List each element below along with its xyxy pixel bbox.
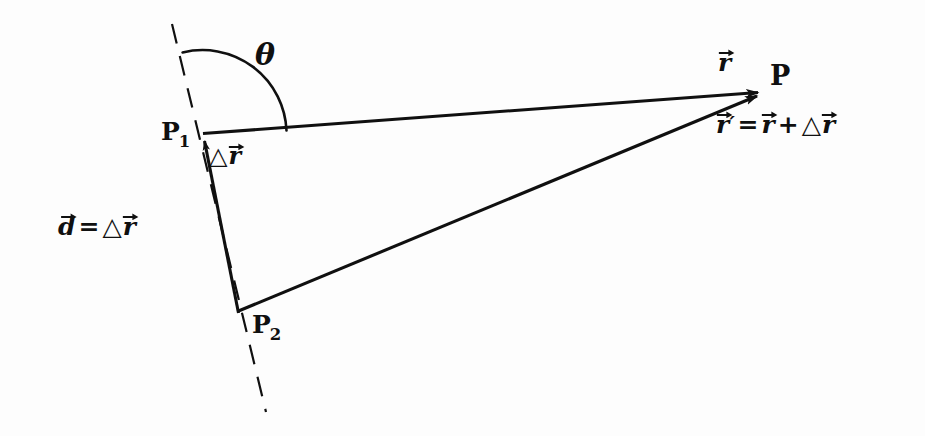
point-label-p2: P2 [252,312,282,337]
prime-mark: ′ [729,112,734,136]
vector-label-delta-r: △r [209,142,241,168]
equals-sign: = [735,110,762,139]
point-label-p1-letter: P [161,117,180,146]
vector-r-prime-glyph: r [716,110,729,137]
vector-r-glyph-delta: r [228,142,241,168]
vector-diagram-figure: θ P1 P2 P r △r r′=r+△r d=△r [0,0,925,436]
point-label-p1: P1 [161,119,191,144]
point-label-p2-subscript: 2 [270,325,281,344]
delta-symbol-d: △ [102,212,122,241]
vector-r-glyph-delta-rhs: r [822,110,835,137]
delta-symbol-rhs: △ [802,110,822,139]
point-label-p1-subscript: 1 [179,132,190,151]
equals-sign-d: = [75,212,102,241]
equation-d-equals-delta-r: d=△r [58,212,136,239]
delta-symbol: △ [209,142,228,170]
angle-label-theta: θ [255,40,275,70]
vector-r-arrow [203,93,758,134]
vector-d-glyph: d [58,212,75,239]
point-label-p: P [770,62,790,89]
vector-r-glyph-d: r [123,212,136,239]
plus-sign: + [775,110,802,139]
vector-label-r: r [718,48,731,75]
equation-r-prime: r′=r+△r [716,110,835,137]
point-label-p2-letter: P [252,310,271,339]
vector-r-glyph-rhs: r [762,110,775,137]
vector-r-prime-arrow [239,96,758,311]
vector-r-glyph: r [718,48,731,75]
